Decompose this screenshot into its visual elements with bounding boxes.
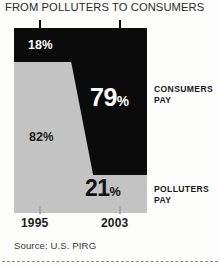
page-title: FROM POLLUTERS TO CONSUMERS (5, 1, 204, 13)
data-label-polluters-2003: 21% (85, 177, 121, 200)
data-label-consumers-2003-value: 79 (90, 83, 117, 111)
plot-area: 18% 82% 79% 21% (14, 28, 147, 213)
data-label-polluters-1995: 82% (29, 131, 53, 144)
bottom-tick-1995 (39, 206, 41, 214)
legend-polluters-line2: PAY (154, 195, 209, 206)
infographic-chart: FROM POLLUTERS TO CONSUMERS 18% 82% 79% … (0, 0, 220, 268)
data-label-polluters-2003-value: 21 (85, 175, 110, 201)
x-axis-label-1995: 1995 (21, 216, 49, 230)
bottom-tick-2003 (119, 206, 121, 214)
data-label-consumers-2003: 79% (90, 85, 129, 110)
percent-sign: % (43, 130, 54, 144)
data-label-consumers-1995-value: 18 (28, 38, 42, 52)
percent-sign: % (42, 38, 53, 52)
source-note: Source: U.S. PIRG (14, 240, 96, 251)
legend-consumers-pay: CONSUMERS PAY (154, 84, 213, 107)
bottom-divider (2, 261, 218, 262)
legend-consumers-line1: CONSUMERS (154, 84, 213, 95)
percent-sign: % (110, 185, 121, 199)
data-label-polluters-1995-value: 82 (29, 130, 43, 144)
legend-polluters-line1: POLLUTERS (154, 184, 209, 195)
top-tick-2003 (119, 20, 121, 28)
percent-sign: % (117, 94, 129, 109)
x-axis-label-2003: 2003 (101, 216, 129, 230)
data-label-consumers-1995: 18% (28, 39, 52, 52)
legend-consumers-line2: PAY (154, 95, 213, 106)
top-tick-1995 (39, 20, 41, 28)
legend-polluters-pay: POLLUTERS PAY (154, 184, 209, 207)
